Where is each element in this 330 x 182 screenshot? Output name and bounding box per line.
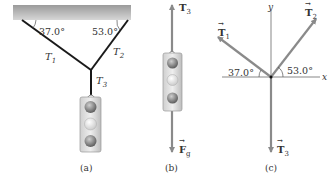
x-axis-label: x: [322, 73, 327, 82]
caption-b: (b): [165, 164, 178, 173]
label-t2-c: →T2: [305, 8, 317, 21]
y-axis-label: y: [268, 3, 273, 12]
angle-label-37-a: 37.0°: [39, 27, 65, 37]
label-t3-c: →T3: [277, 145, 289, 158]
caption-a: (a): [80, 164, 92, 173]
label-t1-c: →T1: [218, 28, 230, 41]
traffic-light-a: [80, 95, 101, 152]
angle-label-53-a: 53.0°: [92, 27, 118, 37]
ceiling: [13, 5, 131, 20]
traffic-light-b: [163, 51, 182, 111]
angle-label-53-c: 53.0°: [287, 66, 313, 76]
angle-label-37-c: 37.0°: [228, 68, 254, 78]
label-t2-a: T2: [113, 47, 124, 60]
label-t3-b: →T3: [179, 3, 191, 16]
label-t3-a: T3: [96, 76, 107, 89]
angle-arc-left-c: [259, 70, 261, 77]
origin-point: [270, 76, 273, 79]
panel-c: [218, 10, 320, 152]
label-t1-a: T1: [45, 52, 56, 65]
caption-c: (c): [265, 164, 277, 173]
angle-arc-left: [33, 20, 36, 28]
label-fg-b: →Fg: [179, 145, 191, 158]
panel-b: [163, 5, 182, 152]
